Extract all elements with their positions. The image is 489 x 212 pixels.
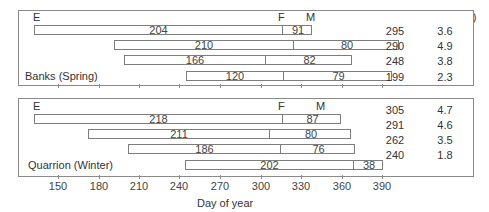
tick <box>99 175 100 179</box>
tick <box>220 84 221 88</box>
yield-value: 3.6 <box>430 25 460 37</box>
x-tick-label: 300 <box>246 180 276 192</box>
eta-value: 248 <box>380 55 410 67</box>
panel-label-quarrion: Quarrion (Winter) <box>28 159 113 171</box>
tick <box>220 175 221 179</box>
x-tick-label: 180 <box>84 180 114 192</box>
x-tick-label: 330 <box>286 180 316 192</box>
post-flowering-segment: 80 <box>269 130 352 138</box>
tick <box>139 84 140 88</box>
tick <box>179 84 180 88</box>
tick <box>58 84 59 88</box>
yield-value: 3.8 <box>430 55 460 67</box>
yield-value: 3.5 <box>430 134 460 146</box>
post-flowering-segment: 76 <box>280 145 356 153</box>
x-tick-label: 270 <box>205 180 235 192</box>
panel-label-banks: Banks (Spring) <box>25 70 98 82</box>
bar-banks-row-1: 204 91 <box>34 25 312 35</box>
eta-value: 305 <box>380 104 410 116</box>
tick <box>342 175 343 179</box>
pre-flowering-segment: 186 <box>129 145 280 153</box>
marker-emergence: E <box>33 100 40 112</box>
x-tick-label: 150 <box>43 180 73 192</box>
post-flowering-segment: 79 <box>283 72 393 80</box>
x-tick-label: 240 <box>164 180 194 192</box>
marker-flowering: F <box>278 100 285 112</box>
tick <box>342 84 343 88</box>
marker-maturity: M <box>316 100 325 112</box>
bar-quarrion-row-3: 186 76 <box>128 144 355 154</box>
yield-value: 4.6 <box>430 119 460 131</box>
pre-flowering-segment: 211 <box>89 130 269 138</box>
yield-value: 1.8 <box>430 149 460 161</box>
marker-maturity: M <box>306 11 315 23</box>
eta-value: 240 <box>380 149 410 161</box>
x-axis-title: Day of year <box>197 197 253 209</box>
yield-value: 4.7 <box>430 104 460 116</box>
bar-quarrion-row-4: 202 38 <box>185 160 383 170</box>
x-tick-label: 210 <box>124 180 154 192</box>
tick <box>261 84 262 88</box>
tick <box>139 175 140 179</box>
marker-emergence: E <box>33 11 40 23</box>
post-flowering-segment: 87 <box>282 115 342 123</box>
post-flowering-segment: 38 <box>353 161 384 169</box>
tick <box>99 84 100 88</box>
bar-quarrion-row-1: 218 87 <box>34 114 341 124</box>
tick <box>301 84 302 88</box>
eta-value: 262 <box>380 134 410 146</box>
x-tick-label: 360 <box>327 180 357 192</box>
pre-flowering-segment: 202 <box>186 161 353 169</box>
post-flowering-segment: 91 <box>282 26 313 34</box>
bar-banks-row-4: 120 79 <box>186 71 392 81</box>
tick <box>382 175 383 179</box>
tick <box>179 175 180 179</box>
tick <box>261 175 262 179</box>
post-flowering-segment: 82 <box>265 56 353 64</box>
bar-banks-row-3: 166 82 <box>124 55 352 65</box>
pre-flowering-segment: 120 <box>187 72 283 80</box>
tick <box>382 84 383 88</box>
yield-value: 2.3 <box>430 71 460 83</box>
bar-quarrion-row-2: 211 80 <box>88 129 351 139</box>
tick <box>58 175 59 179</box>
bar-banks-row-2: 210 80 <box>114 40 399 50</box>
pre-flowering-segment: 210 <box>115 41 293 49</box>
eta-value: 295 <box>380 25 410 37</box>
pre-flowering-segment: 218 <box>35 115 282 123</box>
pre-flowering-segment: 166 <box>125 56 265 64</box>
eta-value: 199 <box>380 71 410 83</box>
yield-value: 4.9 <box>430 40 460 52</box>
x-tick-label: 390 <box>367 180 397 192</box>
eta-value: 291 <box>380 119 410 131</box>
pre-flowering-segment: 204 <box>35 26 282 34</box>
marker-flowering: F <box>278 11 285 23</box>
tick <box>301 175 302 179</box>
eta-value: 290 <box>380 40 410 52</box>
